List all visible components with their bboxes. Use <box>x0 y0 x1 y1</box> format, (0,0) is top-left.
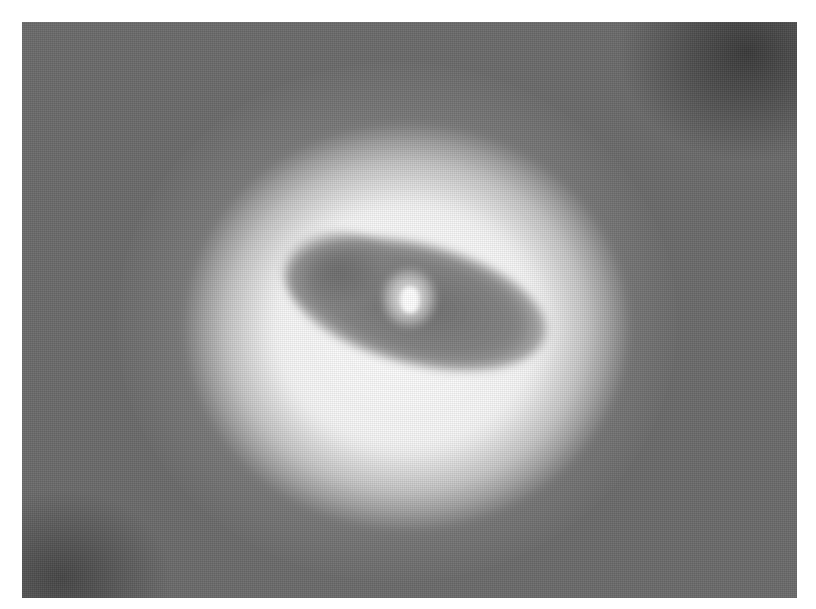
dark-region-left-lobe <box>284 232 394 312</box>
dark-elliptical-region <box>273 214 559 395</box>
bottom-left-shadow <box>22 488 172 598</box>
top-right-shadow <box>617 22 797 162</box>
grayscale-photo <box>22 22 797 598</box>
bright-halo <box>187 127 627 527</box>
core-glow <box>380 267 438 329</box>
film-grain-texture <box>22 22 797 598</box>
page-frame: bright diffuse halo around a tilted dark… <box>0 0 816 609</box>
bright-core <box>401 287 419 313</box>
outer-glow <box>117 62 677 582</box>
